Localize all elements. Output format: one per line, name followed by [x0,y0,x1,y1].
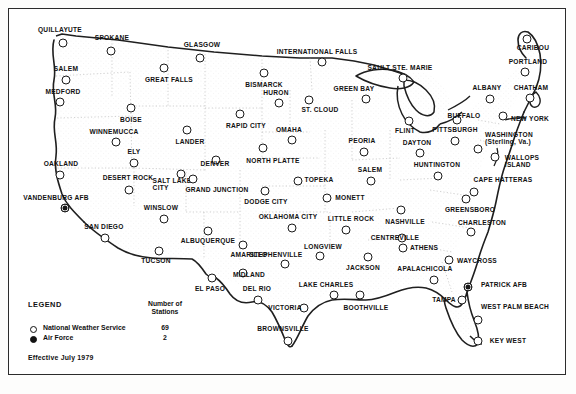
station-label: WINSLOW [144,204,178,212]
station-marker[interactable] [523,35,532,44]
station-label: DESERT ROCK [103,174,154,182]
station-marker[interactable] [239,241,248,250]
station-marker[interactable] [288,136,297,145]
station-marker[interactable] [208,274,217,283]
station-marker[interactable] [101,234,110,243]
station-marker[interactable] [467,228,476,237]
station-marker[interactable] [305,96,314,105]
station-marker[interactable] [189,175,198,184]
station-marker[interactable] [61,204,70,213]
station-marker[interactable] [399,74,408,83]
station-marker[interactable] [127,104,136,113]
station-marker[interactable] [160,64,169,73]
station-marker[interactable] [275,99,284,108]
station-marker[interactable] [183,126,192,135]
station-label: RAPID CITY [226,122,266,130]
station-marker[interactable] [294,177,303,186]
station-marker[interactable] [474,145,483,154]
station-marker[interactable] [323,194,332,203]
station-label: ALBANY [473,84,502,92]
station-marker[interactable] [125,186,134,195]
station-label: WASHINGTON(Sterling, Va.) [485,131,533,146]
station-label: APALACHICOLA [397,265,452,273]
station-marker[interactable] [405,117,414,126]
station-marker[interactable] [486,95,495,104]
station-label: OKLAHOMA CITY [259,213,318,221]
station-marker[interactable] [451,137,460,146]
station-marker[interactable] [356,291,365,300]
station-marker[interactable] [254,296,263,305]
station-label: LITTLE ROCK [328,215,374,223]
legend-count-header: Number of Stations [138,300,192,316]
station-marker[interactable] [364,253,373,262]
station-marker[interactable] [526,94,535,103]
station-marker[interactable] [399,244,408,253]
station-marker[interactable] [107,47,116,56]
legend-count-airforce: 2 [138,334,192,341]
station-label: PITTSBURGH [432,126,477,134]
station-label: MIDLAND [233,271,265,279]
station-label: NORTH PLATTE [246,157,299,165]
station-marker[interactable] [281,260,290,269]
station-label: GREAT FALLS [145,76,193,84]
station-label: MEDFORD [45,88,80,96]
station-marker[interactable] [416,149,425,158]
station-marker[interactable] [445,256,454,265]
station-marker[interactable] [259,144,268,153]
station-marker[interactable] [474,337,483,346]
station-marker[interactable] [316,252,325,261]
station-marker[interactable] [470,188,479,197]
station-marker[interactable] [491,153,500,162]
station-marker[interactable] [360,148,369,157]
station-marker[interactable] [236,110,245,119]
station-marker[interactable] [330,291,339,300]
station-label: LAKE CHARLES [299,281,354,289]
station-label: ELY [128,148,141,156]
station-marker[interactable] [260,69,269,78]
station-marker[interactable] [160,215,169,224]
station-label: TAMPA [432,296,456,304]
station-label: SALEM [358,166,382,174]
station-marker[interactable] [196,54,205,63]
station-label: PATRICK AFB [481,281,527,289]
station-marker[interactable] [430,276,439,285]
station-label: SALEM [54,65,78,73]
station-marker[interactable] [499,112,508,121]
station-marker[interactable] [474,316,483,325]
station-marker[interactable] [458,296,467,305]
station-marker[interactable] [362,95,371,104]
station-marker[interactable] [56,98,65,107]
station-label: TUCSON [141,257,170,265]
legend-effective-date: Effective July 1979 [28,354,93,361]
station-label: FLINT [395,127,415,135]
station-marker[interactable] [59,39,68,48]
station-marker[interactable] [521,68,530,77]
station-marker[interactable] [56,171,65,180]
station-marker[interactable] [367,177,376,186]
station-label: WAYCROSS [457,257,497,265]
station-marker[interactable] [462,195,471,204]
station-label: WEST PALM BEACH [481,303,549,311]
station-label: HURON [263,89,288,97]
station-label: SPOKANE [95,34,129,42]
station-marker[interactable] [397,206,406,215]
station-label: NEW YORK [511,115,549,123]
station-label: NASHVILLE [385,218,425,226]
station-marker[interactable] [130,159,139,168]
station-marker[interactable] [62,76,71,85]
station-label: BISMARCK [245,81,283,89]
legend-count-nws: 69 [138,324,192,331]
station-label: INTERNATIONAL FALLS [277,48,358,56]
station-marker[interactable] [318,58,327,67]
legend-heading: LEGEND [28,300,62,309]
station-marker[interactable] [288,224,297,233]
station-marker[interactable] [112,138,121,147]
station-marker[interactable] [284,337,293,346]
station-marker[interactable] [464,283,473,292]
station-marker[interactable] [261,187,270,196]
station-marker[interactable] [434,172,443,181]
station-marker[interactable] [155,247,164,256]
station-label: DODGE CITY [244,198,288,206]
station-marker[interactable] [342,226,351,235]
station-marker[interactable] [204,227,213,236]
